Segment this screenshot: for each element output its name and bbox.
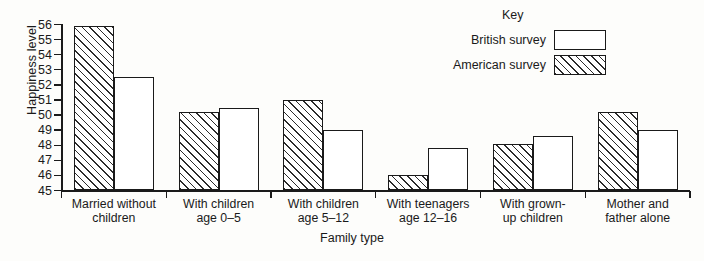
x-axis-category-label: With grown- up children — [481, 197, 586, 225]
y-axis-tick-label: 47 — [28, 154, 52, 167]
x-axis-title: Family type — [0, 231, 704, 245]
x-axis-category-label: Married without children — [62, 197, 167, 225]
y-axis-tick-label: 56 — [28, 19, 52, 32]
y-axis-tick — [54, 84, 62, 85]
x-axis-category-label: With teenagers age 12–16 — [376, 197, 481, 225]
y-axis-line — [61, 24, 63, 191]
y-axis-tick — [54, 99, 62, 100]
bar — [323, 130, 363, 190]
x-axis-category-label: With children age 0–5 — [166, 197, 271, 225]
bar — [283, 100, 323, 191]
legend-swatch-hatched — [554, 55, 606, 75]
legend-item-american-survey: American survey — [398, 55, 606, 75]
bar — [179, 112, 219, 190]
bar — [428, 148, 468, 190]
legend-label: British survey — [471, 33, 546, 47]
y-axis-tick-label: 46 — [28, 169, 52, 182]
bar — [219, 108, 259, 191]
x-axis-category-label: With children age 5–12 — [271, 197, 376, 225]
y-axis-tick-label: 49 — [28, 124, 52, 137]
bar — [638, 130, 678, 190]
bar — [533, 136, 573, 190]
y-axis-tick-label: 45 — [28, 185, 52, 198]
y-axis-tick-label: 51 — [28, 94, 52, 107]
y-axis-tick — [54, 175, 62, 176]
y-axis-tick-label: 55 — [28, 34, 52, 47]
bar — [114, 77, 154, 190]
y-axis-tick — [54, 129, 62, 130]
bar — [598, 112, 638, 190]
legend-item-british-survey: British survey — [398, 30, 606, 50]
y-axis-tick — [54, 145, 62, 146]
bar-chart: Happiness level 454647484950515253545556… — [0, 0, 704, 261]
y-axis-tick — [54, 54, 62, 55]
x-axis-category-label: Mother and father alone — [585, 197, 690, 225]
y-axis-tick-label: 54 — [28, 49, 52, 62]
legend-swatch-white — [554, 30, 606, 50]
y-axis-tick-label: 53 — [28, 64, 52, 77]
legend-title: Key — [502, 8, 524, 22]
bar — [74, 26, 114, 190]
bar — [388, 175, 428, 190]
y-axis-tick-label: 48 — [28, 139, 52, 152]
y-axis-tick-label: 50 — [28, 109, 52, 122]
y-axis-tick — [54, 24, 62, 25]
bar — [493, 144, 533, 191]
legend-label: American survey — [453, 58, 546, 72]
y-axis-tick — [54, 39, 62, 40]
y-axis-tick — [54, 69, 62, 70]
y-axis-tick-label: 52 — [28, 79, 52, 92]
y-axis-tick — [54, 114, 62, 115]
y-axis-tick — [54, 160, 62, 161]
